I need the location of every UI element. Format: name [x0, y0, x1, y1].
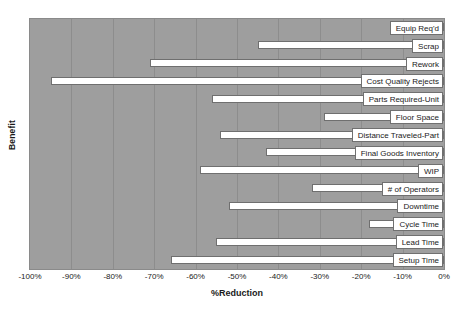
bar-row: Parts Required-Unit: [30, 90, 444, 108]
bar-chart: Benefit Equip Req'dScrapReworkCost Quali…: [0, 0, 466, 312]
bar-category-label: # of Operators: [382, 182, 443, 196]
bar-row: Rework: [30, 55, 444, 73]
bar-category-label: Equip Req'd: [390, 21, 443, 35]
bar-category-label: Distance Traveled-Part: [352, 128, 443, 142]
x-axis-label: %Reduction: [29, 288, 445, 298]
bar-category-label: Cycle Time: [393, 217, 443, 231]
bar-category-label: Scrap: [412, 39, 443, 53]
bar-category-label: Lead Time: [396, 235, 443, 249]
x-tick-label: -60%: [186, 272, 205, 281]
bar-row: Cost Quality Rejects: [30, 73, 444, 91]
x-tick-label: -90%: [62, 272, 81, 281]
x-tick-label: -50%: [228, 272, 247, 281]
bar-rows: Equip Req'dScrapReworkCost Quality Rejec…: [30, 19, 444, 269]
bar-category-label: WIP: [418, 164, 443, 178]
bar-category-label: Parts Required-Unit: [363, 92, 443, 106]
bar-row: WIP: [30, 162, 444, 180]
y-axis-label-text: Benefit: [7, 120, 17, 150]
bar-row: Scrap: [30, 37, 444, 55]
bar-row: # of Operators: [30, 180, 444, 198]
bar-row: Final Goods Inventory: [30, 144, 444, 162]
y-axis-label: Benefit: [2, 0, 22, 270]
bar-row: Lead Time: [30, 233, 444, 251]
bar-row: Setup Time: [30, 251, 444, 269]
bar: [150, 59, 444, 67]
bar-row: Distance Traveled-Part: [30, 126, 444, 144]
bar: [200, 166, 444, 174]
x-axis-ticks: -100%-90%-80%-70%-60%-50%-40%-30%-20%-10…: [29, 272, 445, 286]
x-tick-label: -20%: [352, 272, 371, 281]
x-tick-label: -30%: [310, 272, 329, 281]
x-tick-label: -40%: [269, 272, 288, 281]
bar-row: Downtime: [30, 198, 444, 216]
bar-category-label: Final Goods Inventory: [355, 146, 443, 160]
bar-category-label: Rework: [406, 57, 443, 71]
bar-row: Equip Req'd: [30, 19, 444, 37]
bar-category-label: Cost Quality Rejects: [361, 74, 443, 88]
bar-row: Cycle Time: [30, 215, 444, 233]
plot-area: Equip Req'dScrapReworkCost Quality Rejec…: [29, 18, 445, 270]
x-tick-label: -80%: [103, 272, 122, 281]
bar-category-label: Floor Space: [390, 110, 443, 124]
x-tick-label: 0%: [438, 272, 450, 281]
bar-row: Floor Space: [30, 108, 444, 126]
bar-category-label: Downtime: [397, 199, 443, 213]
x-tick-label: -10%: [393, 272, 412, 281]
x-tick-label: -100%: [18, 272, 41, 281]
x-tick-label: -70%: [145, 272, 164, 281]
bar-category-label: Setup Time: [393, 253, 443, 267]
